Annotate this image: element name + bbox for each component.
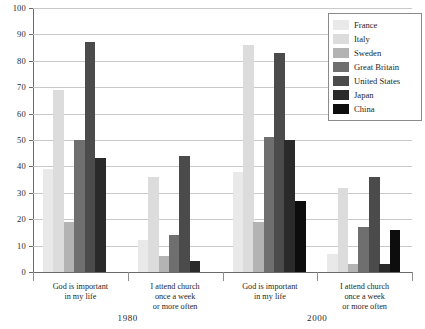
- era-label-2000: 2000: [277, 313, 357, 323]
- legend-item-china[interactable]: China: [333, 102, 417, 116]
- legend-label: Great Britain: [354, 62, 399, 72]
- bar-japan-g4: [379, 264, 390, 272]
- bar-sweden-g3: [253, 222, 264, 272]
- group-separator-2: [223, 272, 224, 281]
- bar-italy-g3: [243, 45, 254, 272]
- bar-chart: Percent 0102030405060708090100 God is im…: [0, 0, 425, 329]
- y-tick-label-70: 70: [4, 82, 26, 92]
- legend-item-united-states[interactable]: United States: [333, 74, 417, 88]
- legend-item-sweden[interactable]: Sweden: [333, 46, 417, 60]
- y-tick-label-10: 10: [4, 241, 26, 251]
- group-separator-3: [317, 272, 318, 281]
- bar-japan-g2: [190, 261, 201, 272]
- legend-item-japan[interactable]: Japan: [333, 88, 417, 102]
- category-label-line: or more often: [120, 302, 230, 312]
- bar-great-britain-g3: [264, 137, 275, 272]
- y-tick-label-0: 0: [4, 267, 26, 277]
- legend-swatch-icon: [333, 20, 349, 30]
- y-tick-label-60: 60: [4, 109, 26, 119]
- legend-swatch-icon: [333, 76, 349, 86]
- bar-sweden-g1: [64, 222, 75, 272]
- category-label-g4: I attend churchonce a weekor more often: [310, 282, 420, 312]
- bar-united-states-g4: [369, 177, 380, 272]
- y-tick-label-30: 30: [4, 188, 26, 198]
- bar-great-britain-g1: [74, 140, 85, 272]
- legend-label: Italy: [354, 34, 370, 44]
- category-label-line: or more often: [310, 302, 420, 312]
- category-label-line: in my life: [215, 292, 325, 302]
- y-tick-label-80: 80: [4, 56, 26, 66]
- bar-united-states-g1: [85, 42, 96, 272]
- bar-china-g3: [295, 201, 306, 272]
- bar-japan-g3: [284, 140, 295, 272]
- legend-item-france[interactable]: France: [333, 18, 417, 32]
- bar-great-britain-g4: [358, 227, 369, 272]
- category-label-line: I attend church: [120, 282, 230, 292]
- category-label-line: God is important: [215, 282, 325, 292]
- bar-italy-g1: [53, 90, 64, 272]
- category-label-line: in my life: [25, 292, 135, 302]
- legend-swatch-icon: [333, 90, 349, 100]
- bar-italy-g4: [338, 188, 349, 272]
- bar-japan-g1: [95, 158, 106, 272]
- y-tick-label-50: 50: [4, 135, 26, 145]
- legend-item-italy[interactable]: Italy: [333, 32, 417, 46]
- legend-label: France: [354, 20, 377, 30]
- category-label-g1: God is importantin my life: [25, 282, 135, 302]
- group-separator-0: [33, 272, 34, 281]
- bar-france-g4: [327, 254, 338, 272]
- gridline-100: [33, 8, 412, 9]
- category-label-line: God is important: [25, 282, 135, 292]
- bar-italy-g2: [148, 177, 159, 272]
- legend-swatch-icon: [333, 48, 349, 58]
- bar-great-britain-g2: [169, 235, 180, 272]
- bar-france-g3: [233, 172, 244, 272]
- category-label-g3: God is importantin my life: [215, 282, 325, 302]
- bar-united-states-g3: [274, 53, 285, 272]
- bar-sweden-g2: [159, 256, 170, 272]
- category-label-line: I attend church: [310, 282, 420, 292]
- legend: FranceItalySwedenGreat BritainUnited Sta…: [328, 13, 422, 121]
- category-label-g2: I attend churchonce a weekor more often: [120, 282, 230, 312]
- era-label-1980: 1980: [88, 313, 168, 323]
- group-separator-1: [128, 272, 129, 281]
- bar-united-states-g2: [179, 156, 190, 272]
- group-separator-4: [412, 272, 413, 281]
- legend-swatch-icon: [333, 62, 349, 72]
- y-tick-label-40: 40: [4, 161, 26, 171]
- legend-label: Japan: [354, 90, 374, 100]
- legend-item-great-britain[interactable]: Great Britain: [333, 60, 417, 74]
- bar-china-g4: [390, 230, 401, 272]
- y-tick-label-90: 90: [4, 29, 26, 39]
- legend-swatch-icon: [333, 34, 349, 44]
- chart-title-clipped: [0, 0, 425, 6]
- legend-label: Sweden: [354, 48, 381, 58]
- category-label-line: once a week: [120, 292, 230, 302]
- category-label-line: once a week: [310, 292, 420, 302]
- y-tick-label-20: 20: [4, 214, 26, 224]
- bar-sweden-g4: [348, 264, 359, 272]
- legend-swatch-icon: [333, 104, 349, 114]
- bar-france-g2: [138, 240, 149, 272]
- bar-france-g1: [43, 169, 54, 272]
- legend-label: China: [354, 104, 375, 114]
- y-tick-label-100: 100: [4, 3, 26, 13]
- legend-label: United States: [354, 76, 400, 86]
